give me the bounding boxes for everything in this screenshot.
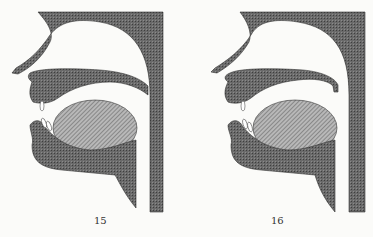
diagram-canvas xyxy=(0,0,373,237)
upper-lip-velum xyxy=(28,69,148,103)
figure-16 xyxy=(211,12,365,212)
figure-label-16: 16 xyxy=(271,215,284,226)
upper-lip-velum xyxy=(225,69,338,103)
upper-tooth xyxy=(241,101,245,111)
lower-tooth-2 xyxy=(247,122,253,133)
figure-15 xyxy=(12,12,163,212)
upper-tooth xyxy=(40,101,44,111)
figure-label-15: 15 xyxy=(94,215,107,226)
